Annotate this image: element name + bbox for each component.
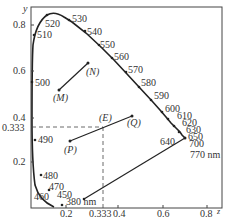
label-n: (N)	[86, 66, 100, 78]
purple-line	[84, 138, 185, 199]
svg-text:520: 520	[45, 18, 60, 29]
y-tick-0.2: 0.2	[13, 156, 26, 167]
svg-text:500: 500	[35, 77, 50, 88]
svg-text:640: 640	[160, 136, 175, 147]
svg-text:510: 510	[37, 29, 52, 40]
svg-text:480: 480	[43, 170, 58, 181]
svg-text:460: 460	[34, 191, 49, 202]
x-tick-0.6: 0.6	[157, 208, 170, 219]
x-tick-0.2: 0.2	[60, 208, 73, 219]
x-tick-0.4: 0.4	[113, 208, 126, 219]
label-p: (P)	[64, 144, 77, 156]
svg-text:560: 560	[114, 51, 129, 62]
y-tick-0.333: 0.333	[2, 122, 25, 133]
plot-frame	[31, 7, 222, 208]
svg-text:380 nm: 380 nm	[66, 196, 97, 207]
x-tick-0.8: 0.8	[200, 208, 213, 219]
x-tick-0.333: 0.333	[89, 208, 112, 219]
y-axis-label: y	[22, 3, 28, 14]
svg-text:590: 590	[154, 90, 169, 101]
wavelength-labels: 520 530 540 550 560 570 580 590 600 610 …	[34, 13, 221, 207]
svg-text:700: 700	[189, 138, 204, 149]
svg-text:770 nm: 770 nm	[190, 149, 221, 160]
point-n	[87, 62, 90, 65]
svg-text:490: 490	[38, 134, 53, 145]
svg-text:530: 530	[72, 13, 87, 24]
chromaticity-diagram: y 0.8 0.6 0.4 0.333 0.2 0.2 0.333 0.4 0.…	[0, 0, 229, 219]
y-tick-0.6: 0.6	[13, 65, 26, 76]
svg-text:580: 580	[141, 77, 156, 88]
label-m: (M)	[53, 92, 69, 104]
svg-text:550: 550	[100, 39, 115, 50]
svg-text:570: 570	[128, 64, 143, 75]
point-p	[69, 140, 72, 143]
mn-line	[59, 63, 88, 90]
svg-text:540: 540	[87, 26, 102, 37]
label-q: (Q)	[127, 117, 142, 129]
label-e: (E)	[99, 112, 112, 124]
y-tick-0.8: 0.8	[13, 19, 26, 30]
